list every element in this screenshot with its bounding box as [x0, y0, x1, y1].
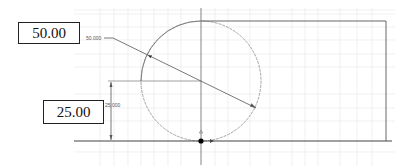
- diameter-leader-line: [104, 38, 256, 108]
- height-dimension-label[interactable]: 25.000: [105, 102, 121, 108]
- profile-arc: [141, 21, 201, 81]
- height-value-input[interactable]: 25.00: [43, 100, 104, 124]
- profile-rectangle[interactable]: [201, 21, 386, 141]
- origin-point[interactable]: [198, 138, 203, 143]
- diameter-dimension-label[interactable]: 50.000: [86, 35, 102, 41]
- radius-value-input[interactable]: 50.00: [18, 22, 80, 44]
